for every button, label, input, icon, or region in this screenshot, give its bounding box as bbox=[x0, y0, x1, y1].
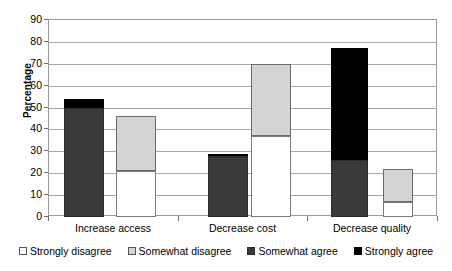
bar-segment bbox=[251, 136, 291, 217]
legend-label: Strongly agree bbox=[365, 245, 433, 257]
stacked-bar-chart: Percentage 0102030405060708090 Increase … bbox=[0, 0, 452, 271]
y-axis-tick-label: 40 bbox=[18, 123, 42, 133]
bar-segment bbox=[383, 169, 413, 202]
legend-label: Somewhat agree bbox=[258, 245, 337, 257]
bar bbox=[331, 48, 368, 217]
bar-segment bbox=[383, 202, 413, 217]
gridline bbox=[49, 151, 436, 152]
x-axis-tick-mark bbox=[178, 216, 179, 221]
x-axis-tick-mark bbox=[437, 216, 438, 221]
y-axis-tick-label: 70 bbox=[18, 58, 42, 68]
bar-segment bbox=[208, 154, 248, 156]
legend-item[interactable]: Strongly agree bbox=[354, 245, 433, 257]
gridline bbox=[49, 86, 436, 87]
bar-segment bbox=[208, 156, 248, 217]
bar-segment bbox=[64, 108, 104, 217]
y-axis-tick-label: 10 bbox=[18, 189, 42, 199]
bar-segment bbox=[331, 48, 368, 160]
x-axis-category-label: Increase access bbox=[48, 222, 178, 234]
y-axis-tick-label: 90 bbox=[18, 14, 42, 24]
legend-swatch-icon bbox=[19, 247, 27, 255]
legend-swatch-icon bbox=[128, 247, 136, 255]
legend-item[interactable]: Strongly disagree bbox=[19, 245, 112, 257]
y-axis-tick-label: 0 bbox=[18, 211, 42, 221]
y-axis-tick-label: 60 bbox=[18, 80, 42, 90]
legend-swatch-icon bbox=[354, 247, 362, 255]
legend-item[interactable]: Somewhat disagree bbox=[128, 245, 232, 257]
x-axis-category-label: Decrease quality bbox=[307, 222, 437, 234]
gridline bbox=[49, 64, 436, 65]
bar-segment bbox=[116, 171, 156, 217]
plot-area bbox=[48, 19, 437, 216]
x-axis-category-label: Decrease cost bbox=[178, 222, 307, 234]
legend-label: Strongly disagree bbox=[30, 245, 112, 257]
gridline bbox=[49, 129, 436, 130]
bar-segment bbox=[251, 64, 291, 136]
legend-label: Somewhat disagree bbox=[139, 245, 232, 257]
y-axis-tick-label: 20 bbox=[18, 167, 42, 177]
y-axis-tick-label: 30 bbox=[18, 145, 42, 155]
y-axis-tick-label: 50 bbox=[18, 102, 42, 112]
gridline bbox=[49, 42, 436, 43]
x-axis-tick-mark bbox=[48, 216, 49, 221]
x-axis-tick-mark bbox=[307, 216, 308, 221]
bar bbox=[383, 169, 413, 217]
bar bbox=[116, 116, 156, 217]
bar bbox=[208, 154, 248, 217]
bar bbox=[64, 99, 104, 217]
legend-swatch-icon bbox=[247, 247, 255, 255]
legend-item[interactable]: Somewhat agree bbox=[247, 245, 337, 257]
bar bbox=[251, 64, 291, 217]
bar-segment bbox=[64, 99, 104, 108]
gridline bbox=[49, 108, 436, 109]
chart-legend: Strongly disagreeSomewhat disagreeSomewh… bbox=[0, 245, 452, 257]
bar-segment bbox=[116, 116, 156, 171]
y-axis-tick-label: 80 bbox=[18, 36, 42, 46]
bar-segment bbox=[331, 160, 368, 217]
